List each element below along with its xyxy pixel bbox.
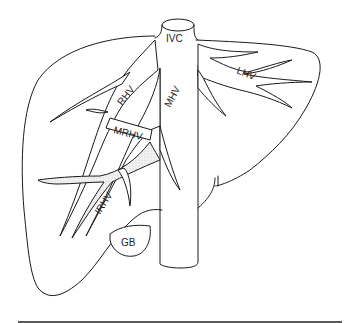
liver-diagram: IVC LHV RHV MHV MRHV IRHV GB — [0, 0, 356, 323]
rhv-small-branch — [86, 109, 108, 113]
label-ivc: IVC — [166, 33, 183, 44]
irhv-stippled-region — [38, 142, 160, 238]
ivc-top — [162, 19, 194, 31]
label-gb: GB — [121, 237, 136, 248]
mhv-branch-right — [160, 126, 180, 190]
label-mhv: MHV — [162, 84, 182, 109]
